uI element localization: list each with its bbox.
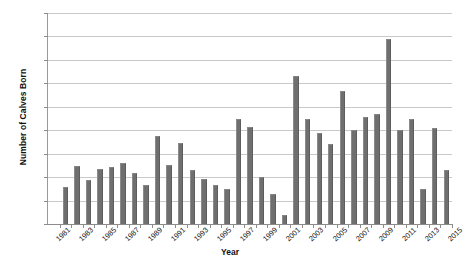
x-axis-tick bbox=[313, 224, 314, 228]
bar-slot bbox=[83, 13, 95, 224]
x-axis-tick bbox=[348, 224, 349, 228]
x-axis-tick bbox=[140, 224, 141, 228]
bar[interactable] bbox=[236, 119, 241, 225]
plot-area: 051015202530354045 198119831985198719891… bbox=[47, 13, 452, 224]
x-axis-tick bbox=[394, 224, 395, 228]
bar-slot bbox=[198, 13, 210, 224]
bar-slot bbox=[406, 13, 418, 224]
x-axis-tick bbox=[290, 224, 291, 228]
x-axis-tick bbox=[360, 224, 361, 228]
bar-slot bbox=[290, 13, 302, 224]
bar-slot bbox=[302, 13, 314, 224]
bar-slot bbox=[71, 13, 83, 224]
bar-slot bbox=[360, 13, 372, 224]
bar[interactable] bbox=[328, 144, 333, 224]
x-axis-tick bbox=[383, 224, 384, 228]
bar[interactable] bbox=[409, 119, 414, 225]
bar[interactable] bbox=[397, 130, 402, 224]
x-axis-tick bbox=[83, 224, 84, 228]
bar-slot bbox=[440, 13, 452, 224]
bar-slot bbox=[394, 13, 406, 224]
bar-slot bbox=[256, 13, 268, 224]
y-axis-title: Number of Calves Born bbox=[18, 47, 28, 187]
x-axis-tick bbox=[117, 224, 118, 228]
bar-slot bbox=[129, 13, 141, 224]
bar[interactable] bbox=[259, 177, 264, 224]
x-axis-tick bbox=[267, 224, 268, 228]
x-axis-tick bbox=[256, 224, 257, 228]
bar-slot bbox=[187, 13, 199, 224]
x-axis-tick bbox=[233, 224, 234, 228]
bar-slot bbox=[152, 13, 164, 224]
bar-slot bbox=[175, 13, 187, 224]
bar[interactable] bbox=[351, 130, 356, 224]
bar[interactable] bbox=[63, 187, 68, 225]
bar-slot bbox=[106, 13, 118, 224]
x-axis-tick bbox=[60, 224, 61, 228]
bar-slot bbox=[163, 13, 175, 224]
bar-slot bbox=[210, 13, 222, 224]
bar[interactable] bbox=[120, 163, 125, 224]
bars-group bbox=[48, 13, 452, 224]
bar[interactable] bbox=[293, 76, 298, 224]
x-axis-tick bbox=[429, 224, 430, 228]
bar[interactable] bbox=[201, 179, 206, 224]
x-axis-tick bbox=[452, 224, 453, 228]
bar[interactable] bbox=[305, 119, 310, 224]
bar-slot bbox=[383, 13, 395, 224]
x-axis-tick bbox=[337, 224, 338, 228]
x-axis-tick bbox=[152, 224, 153, 228]
x-axis-tick bbox=[279, 224, 280, 228]
bar-slot bbox=[348, 13, 360, 224]
bar-slot bbox=[60, 13, 72, 224]
y-axis-tick bbox=[44, 224, 48, 225]
bar[interactable] bbox=[109, 167, 114, 224]
x-axis-tick bbox=[175, 224, 176, 228]
bar[interactable] bbox=[178, 143, 183, 224]
bar-slot bbox=[221, 13, 233, 224]
x-axis-tick bbox=[129, 224, 130, 228]
x-axis-tick bbox=[406, 224, 407, 228]
x-axis-title: Year bbox=[0, 247, 460, 257]
x-axis-tick bbox=[210, 224, 211, 228]
bar[interactable] bbox=[340, 91, 345, 224]
x-axis-tick bbox=[325, 224, 326, 228]
bar-slot bbox=[371, 13, 383, 224]
bar-slot bbox=[279, 13, 291, 224]
bar[interactable] bbox=[317, 133, 322, 224]
bar[interactable] bbox=[374, 114, 379, 224]
bar[interactable] bbox=[386, 39, 391, 224]
bar[interactable] bbox=[132, 173, 137, 224]
bar-slot bbox=[233, 13, 245, 224]
bar[interactable] bbox=[97, 169, 102, 224]
x-axis-tick bbox=[221, 224, 222, 228]
bar[interactable] bbox=[270, 194, 275, 224]
x-axis-tick bbox=[198, 224, 199, 228]
bar-slot bbox=[325, 13, 337, 224]
bar-slot bbox=[94, 13, 106, 224]
bar-slot bbox=[244, 13, 256, 224]
x-axis-tick bbox=[440, 224, 441, 228]
bar[interactable] bbox=[166, 165, 171, 224]
bar-slot bbox=[417, 13, 429, 224]
bar[interactable] bbox=[224, 189, 229, 224]
bar[interactable] bbox=[444, 170, 449, 224]
bar[interactable] bbox=[190, 170, 195, 224]
x-axis-tick bbox=[71, 224, 72, 228]
x-axis-tick bbox=[302, 224, 303, 228]
bar-slot bbox=[313, 13, 325, 224]
bar[interactable] bbox=[432, 128, 437, 224]
bar-slot bbox=[117, 13, 129, 224]
x-axis-tick bbox=[244, 224, 245, 228]
bar[interactable] bbox=[247, 127, 252, 224]
bar-slot bbox=[429, 13, 441, 224]
x-axis-tick bbox=[163, 224, 164, 228]
bar[interactable] bbox=[363, 117, 368, 224]
x-axis-tick bbox=[417, 224, 418, 228]
x-axis-tick bbox=[371, 224, 372, 228]
bar[interactable] bbox=[86, 180, 91, 224]
bar[interactable] bbox=[74, 166, 79, 224]
bar[interactable] bbox=[155, 136, 160, 224]
x-axis-tick bbox=[106, 224, 107, 228]
